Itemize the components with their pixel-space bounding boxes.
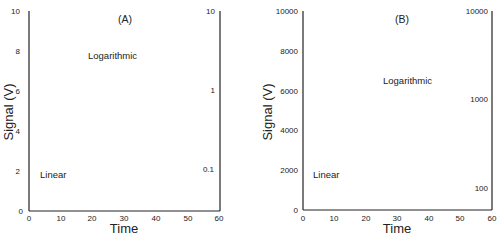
xtick: 60 (215, 214, 224, 223)
xtick: 0 (301, 214, 306, 223)
y-axis-label: Signal (V) (1, 83, 16, 140)
xtick: 50 (184, 214, 193, 223)
rtick: 1000 (470, 95, 488, 104)
xtick: 50 (456, 214, 465, 223)
xtick: 60 (488, 214, 497, 223)
ytick: 10000 (276, 7, 299, 16)
xtick: 10 (330, 214, 339, 223)
ytick: 10 (11, 7, 20, 16)
xtick: 20 (362, 214, 371, 223)
rtick: 0.1 (203, 165, 215, 174)
xtick: 0 (27, 214, 32, 223)
x-axis-label: Time (383, 221, 411, 236)
ytick: 4000 (280, 126, 298, 135)
rtick: 100 (475, 184, 489, 193)
linear-curve-label: Linear (40, 169, 66, 180)
xtick: 20 (88, 214, 97, 223)
y-axis-label: Signal (V) (260, 83, 275, 140)
figure: 10 8 6 4 2 0 0 10 20 30 40 50 60 10 1 0.… (0, 0, 502, 236)
rtick: 10 (206, 7, 215, 16)
panel-title: (A) (118, 13, 132, 25)
linear-curve-label: Linear (313, 169, 339, 180)
log-curve-label: Logarithmic (88, 50, 137, 61)
xtick: 40 (425, 214, 434, 223)
ytick: 0 (294, 206, 299, 215)
ytick: 8000 (280, 47, 298, 56)
xtick: 10 (57, 214, 66, 223)
x-axis-label: Time (110, 221, 138, 236)
ytick: 2 (16, 167, 21, 176)
ytick: 8 (16, 47, 21, 56)
ytick: 2000 (280, 166, 298, 175)
panel-title: (B) (395, 13, 409, 25)
log-curve-label: Logarithmic (383, 75, 432, 86)
rtick: 10000 (466, 7, 489, 16)
xtick: 40 (152, 214, 161, 223)
panel-b: 10000 8000 6000 4000 2000 0 0 10 20 30 4… (260, 7, 497, 236)
ytick: 6 (16, 87, 21, 96)
ytick: 6000 (280, 87, 298, 96)
panel-a: 10 8 6 4 2 0 0 10 20 30 40 50 60 10 1 0.… (1, 7, 224, 236)
ytick: 0 (19, 207, 24, 216)
ytick: 4 (16, 127, 21, 136)
rtick: 1 (211, 86, 216, 95)
